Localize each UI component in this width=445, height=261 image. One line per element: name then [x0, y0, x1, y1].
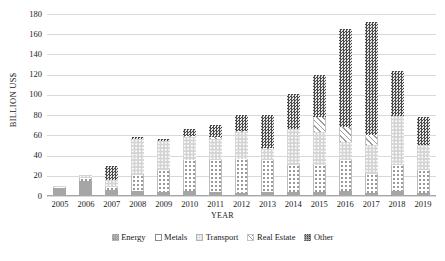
- bar-column[interactable]: [313, 75, 326, 196]
- bar-segment-energy[interactable]: [417, 193, 430, 196]
- bar-segment-energy[interactable]: [131, 191, 144, 196]
- bar-column[interactable]: [53, 186, 66, 196]
- bar-segment-other[interactable]: [287, 94, 300, 129]
- bar-column[interactable]: [391, 71, 404, 196]
- bar-column[interactable]: [183, 129, 196, 196]
- y-tick-label: 60: [12, 131, 42, 140]
- bar-segment-energy[interactable]: [339, 191, 352, 196]
- bar-column[interactable]: [157, 139, 170, 196]
- x-axis-title: YEAR: [0, 211, 445, 220]
- bar-segment-metals[interactable]: [391, 165, 404, 191]
- gridline: [47, 196, 436, 197]
- energy-swatch-icon: [112, 234, 119, 241]
- bar-column[interactable]: [105, 166, 118, 196]
- y-tick-label: 100: [12, 90, 42, 99]
- other-swatch-icon: [304, 234, 311, 241]
- bar-segment-other[interactable]: [417, 117, 430, 145]
- legend-item-energy[interactable]: Energy: [112, 232, 146, 242]
- bar-column[interactable]: [365, 22, 378, 196]
- bar-column[interactable]: [235, 115, 248, 196]
- legend-item-realestate[interactable]: Real Estate: [247, 232, 295, 242]
- bar-segment-realestate[interactable]: [339, 127, 352, 142]
- bar-segment-metals[interactable]: [261, 160, 274, 192]
- bar-segment-realestate[interactable]: [313, 117, 326, 132]
- bar-segment-energy[interactable]: [235, 193, 248, 196]
- y-tick-label: 120: [12, 70, 42, 79]
- legend-label: Other: [314, 232, 333, 242]
- bar-segment-metals[interactable]: [209, 160, 222, 192]
- bar-segment-metals[interactable]: [287, 165, 300, 192]
- y-tick-label: 40: [12, 151, 42, 160]
- bar-segment-transport[interactable]: [235, 132, 248, 158]
- bar-column[interactable]: [287, 94, 300, 196]
- plot-area: [47, 14, 436, 196]
- legend-label: Real Estate: [257, 232, 295, 242]
- bar-segment-other[interactable]: [183, 129, 196, 136]
- transport-swatch-icon: [196, 234, 203, 241]
- x-tick-label: 2019: [408, 199, 438, 209]
- bar-segment-transport[interactable]: [365, 145, 378, 173]
- bar-segment-energy[interactable]: [79, 181, 92, 196]
- bar-segment-energy[interactable]: [183, 191, 196, 196]
- legend-label: Metals: [164, 232, 187, 242]
- bar-segment-transport[interactable]: [313, 132, 326, 164]
- bar-segment-metals[interactable]: [131, 175, 144, 191]
- x-axis-ticks: 2005200620072008200920102011201220132014…: [47, 199, 436, 211]
- legend-label: Energy: [121, 232, 145, 242]
- bar-segment-metals[interactable]: [313, 165, 326, 192]
- bar-segment-transport[interactable]: [391, 116, 404, 165]
- legend-item-transport[interactable]: Transport: [196, 232, 238, 242]
- bar-segment-transport[interactable]: [417, 145, 430, 169]
- metals-swatch-icon: [155, 234, 162, 241]
- bar-segment-transport[interactable]: [183, 137, 196, 159]
- bar-segment-energy[interactable]: [287, 192, 300, 196]
- bar-segment-energy[interactable]: [261, 192, 274, 196]
- bar-segment-realestate[interactable]: [365, 135, 378, 145]
- y-tick-label: 0: [12, 192, 42, 201]
- bar-segment-transport[interactable]: [339, 142, 352, 159]
- bar-column[interactable]: [79, 175, 92, 196]
- bar-column[interactable]: [131, 137, 144, 196]
- y-tick-label: 20: [12, 171, 42, 180]
- bar-segment-energy[interactable]: [105, 190, 118, 196]
- legend-item-other[interactable]: Other: [304, 232, 333, 242]
- bar-column[interactable]: [417, 117, 430, 196]
- bar-segment-metals[interactable]: [157, 170, 170, 192]
- bar-segment-metals[interactable]: [183, 160, 196, 191]
- legend-label: Transport: [206, 232, 239, 242]
- bar-segment-energy[interactable]: [391, 191, 404, 196]
- bar-segment-transport[interactable]: [131, 139, 144, 174]
- bar-segment-transport[interactable]: [105, 180, 118, 187]
- bar-segment-metals[interactable]: [365, 174, 378, 193]
- y-tick-label: 80: [12, 111, 42, 120]
- bar-segment-energy[interactable]: [365, 193, 378, 196]
- bar-segment-energy[interactable]: [313, 192, 326, 196]
- bar-column[interactable]: [261, 115, 274, 196]
- bar-segment-other[interactable]: [313, 75, 326, 117]
- bar-segment-energy[interactable]: [157, 192, 170, 196]
- bar-column[interactable]: [339, 29, 352, 196]
- bar-segment-energy[interactable]: [209, 192, 222, 196]
- bar-segment-transport[interactable]: [157, 141, 170, 169]
- bar-segment-other[interactable]: [235, 115, 248, 131]
- bar-segment-transport[interactable]: [209, 139, 222, 159]
- bar-series-layer: [47, 14, 436, 196]
- bar-segment-other[interactable]: [365, 22, 378, 135]
- bar-segment-metals[interactable]: [417, 170, 430, 193]
- bar-segment-transport[interactable]: [261, 149, 274, 160]
- y-tick-label: 160: [12, 30, 42, 39]
- bar-segment-other[interactable]: [339, 29, 352, 127]
- bar-segment-metals[interactable]: [235, 159, 248, 193]
- bar-segment-other[interactable]: [209, 125, 222, 137]
- bar-segment-other[interactable]: [391, 71, 404, 117]
- bar-segment-metals[interactable]: [339, 160, 352, 191]
- legend-item-metals[interactable]: Metals: [155, 232, 188, 242]
- chart-legend: EnergyMetalsTransportReal EstateOther: [0, 232, 445, 242]
- bar-segment-energy[interactable]: [53, 188, 66, 196]
- bar-segment-transport[interactable]: [287, 129, 300, 164]
- bar-column[interactable]: [209, 125, 222, 196]
- stacked-bar-chart: BILLION US$ 020406080100120140160180 200…: [0, 0, 445, 261]
- bar-segment-other[interactable]: [261, 115, 274, 147]
- y-tick-label: 140: [12, 50, 42, 59]
- bar-segment-other[interactable]: [105, 166, 118, 180]
